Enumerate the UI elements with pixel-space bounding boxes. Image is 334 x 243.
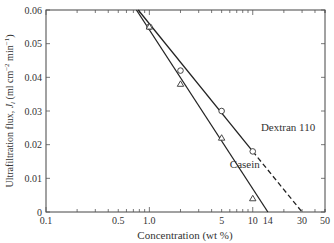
circle-marker — [219, 108, 225, 114]
x-tick-label: 30 — [297, 215, 307, 226]
y-tick-label: 0.04 — [25, 72, 43, 83]
y-axis-tick-labels: 00.010.020.030.040.050.06 — [25, 5, 43, 218]
x-axis-ticks — [46, 10, 325, 212]
y-axis-label: Ultrafiltration flux, Jl (ml cm−2 min−1) — [3, 35, 17, 188]
x-axis-tick-labels: 0.10.51.0510143050 — [40, 215, 330, 226]
x-tick-label: 50 — [320, 215, 330, 226]
y-tick-label: 0.05 — [25, 38, 43, 49]
x-tick-label: 5 — [219, 215, 224, 226]
series-annotations: Dextran 110Casein — [230, 121, 316, 170]
x-tick-label: 1.0 — [143, 215, 156, 226]
y-tick-label: 0.02 — [25, 139, 43, 150]
circle-marker — [250, 149, 256, 155]
x-tick-label: 10 — [248, 215, 258, 226]
y-axis-ticks — [46, 10, 325, 212]
dextran-110-fit-line — [138, 10, 253, 151]
casein-fit-line — [136, 10, 267, 212]
series-label: Casein — [230, 158, 260, 170]
triangle-marker — [250, 195, 256, 200]
series-label: Dextran 110 — [261, 121, 316, 133]
y-tick-label: 0 — [37, 207, 42, 218]
plot-frame — [46, 10, 325, 212]
dextran-110-extrapolation-line — [253, 151, 302, 212]
y-tick-label: 0.01 — [25, 173, 43, 184]
x-tick-label: 0.5 — [112, 215, 125, 226]
x-axis-label: Concentration (wt %) — [137, 229, 233, 242]
ultrafiltration-chart: 0.10.51.0510143050 00.010.020.030.040.05… — [0, 0, 334, 243]
y-tick-label: 0.03 — [25, 106, 43, 117]
circle-marker — [178, 68, 184, 74]
x-tick-label: 14 — [263, 215, 273, 226]
y-tick-label: 0.06 — [25, 5, 43, 16]
